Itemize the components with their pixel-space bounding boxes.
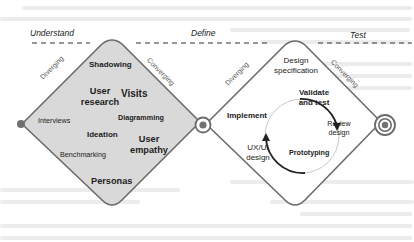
label-shadowing: Shadowing	[89, 60, 132, 69]
label-personas: Personas	[91, 176, 132, 187]
label-interviews: Interviews	[38, 117, 70, 125]
label-implement: Implement	[227, 111, 267, 120]
label-diagramming: Diagramming	[118, 114, 164, 122]
end-node	[375, 115, 395, 135]
phase-test: Test	[350, 30, 366, 40]
label-ideation: Ideation	[87, 130, 118, 139]
start-node	[17, 120, 25, 128]
middle-node	[196, 118, 211, 133]
phase-define: Define	[191, 28, 216, 38]
phase-understand: Understand	[30, 28, 74, 38]
label-visits: Visits	[121, 88, 148, 100]
label-prototyping: Prototyping	[289, 149, 329, 157]
label-benchmarking: Benchmarking	[60, 151, 106, 159]
